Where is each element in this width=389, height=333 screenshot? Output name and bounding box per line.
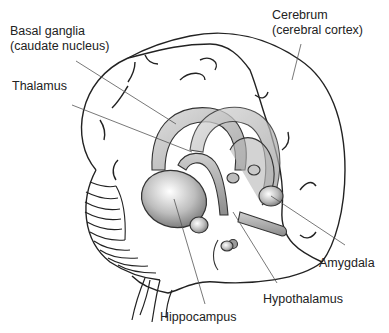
label-basal-ganglia-line1: Basal ganglia bbox=[10, 24, 109, 39]
label-amygdala-line1: Amygdala bbox=[319, 256, 375, 271]
label-cerebrum-line2: (cerebral cortex) bbox=[272, 23, 363, 38]
label-cerebrum: Cerebrum (cerebral cortex) bbox=[272, 8, 363, 38]
label-hippocampus: Hippocampus bbox=[160, 310, 236, 325]
label-thalamus: Thalamus bbox=[12, 79, 67, 94]
label-basal-ganglia-line2: (caudate nucleus) bbox=[10, 39, 109, 54]
hypothalamus bbox=[214, 240, 234, 270]
leader-cerebrum bbox=[292, 44, 301, 80]
label-thalamus-line1: Thalamus bbox=[12, 79, 67, 94]
label-hypothalamus-line1: Hypothalamus bbox=[263, 292, 343, 307]
label-hypothalamus: Hypothalamus bbox=[263, 292, 343, 307]
label-hippocampus-line1: Hippocampus bbox=[160, 310, 236, 325]
label-cerebrum-line1: Cerebrum bbox=[272, 8, 363, 23]
label-basal-ganglia: Basal ganglia (caudate nucleus) bbox=[10, 24, 109, 54]
label-amygdala: Amygdala bbox=[319, 256, 375, 271]
